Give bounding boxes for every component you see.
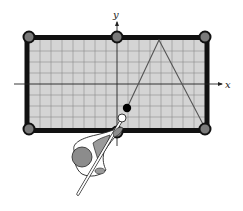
pocket-bottom-right (200, 124, 211, 135)
pocket-top-left (24, 32, 35, 43)
pocket-bottom-left (24, 124, 35, 135)
pocket-top-right (200, 32, 211, 43)
x-axis-label: x (225, 79, 231, 90)
billiard-diagram: x y (0, 0, 243, 211)
cue-ball (118, 114, 126, 122)
pocket-top-middle (112, 32, 123, 43)
player-hand (95, 168, 105, 174)
player-head (72, 147, 92, 167)
object-ball (123, 104, 131, 112)
y-axis-label: y (112, 9, 119, 20)
